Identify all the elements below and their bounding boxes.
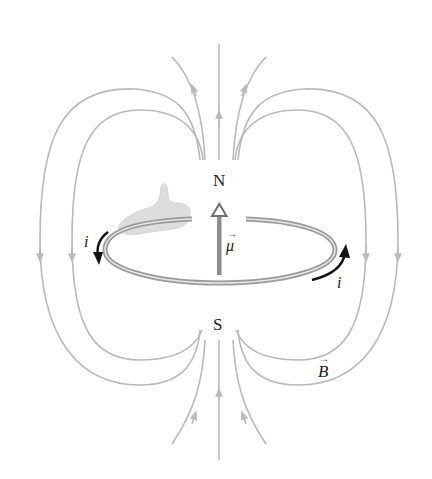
north-pole-label: N xyxy=(213,172,225,189)
magnetic-field-label: → B xyxy=(318,363,328,380)
mu-symbol: μ xyxy=(226,237,234,254)
b-symbol: B xyxy=(318,362,328,381)
current-label-right: i xyxy=(337,275,341,291)
current-label-left: i xyxy=(84,234,88,250)
vector-arrow-icon: → xyxy=(319,354,329,364)
magnetic-moment-label: → μ xyxy=(226,238,234,254)
south-pole-label: S xyxy=(213,316,222,333)
magnetic-moment-arrow xyxy=(212,204,227,275)
vector-arrow-icon: → xyxy=(227,229,237,239)
dipole-diagram: N S → μ i i → B xyxy=(0,0,432,479)
field-diagram-svg xyxy=(0,0,432,479)
